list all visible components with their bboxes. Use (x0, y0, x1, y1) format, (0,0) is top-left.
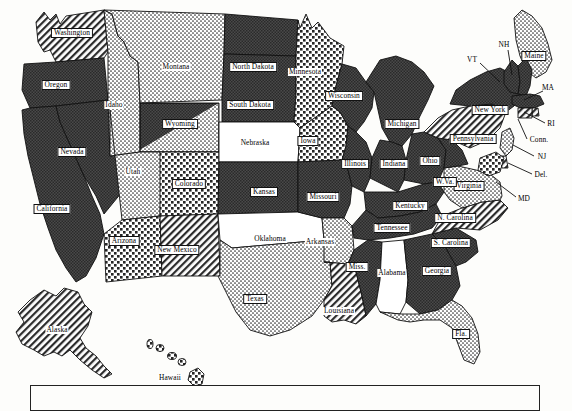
state-shape-AZ[interactable] (104, 216, 162, 282)
state-shape-NJ[interactable] (500, 128, 514, 156)
state-label-CT: Conn. (530, 136, 548, 144)
state-label-IA: Iowa (297, 136, 318, 146)
state-label-PA: Pennsylvania (450, 134, 497, 144)
state-label-ID: Idaho (104, 101, 123, 109)
state-label-MI: Michigan (384, 119, 419, 129)
state-label-NC: N. Carolina (434, 213, 476, 223)
state-label-AZ: Arizona (109, 236, 140, 246)
state-shape-RI[interactable] (532, 108, 539, 116)
state-label-KY: Kentucky (392, 201, 428, 211)
state-label-TN: Tennessee (373, 223, 410, 233)
state-label-NH: NH (499, 41, 510, 49)
state-label-AR: Arkansas (305, 238, 335, 246)
state-label-RI: RI (547, 120, 555, 128)
state-label-NV: Nevada (57, 147, 86, 157)
state-label-IN: Indiana (380, 159, 409, 169)
state-label-UT: Utah (125, 168, 142, 176)
state-label-SD: South Dakota (226, 100, 274, 110)
state-label-VA: Virginia (454, 181, 485, 191)
state-shape-ND[interactable] (224, 14, 298, 56)
state-label-AL: Alabama (377, 269, 406, 277)
state-label-TX: Texas (243, 294, 267, 304)
state-label-NJ: NJ (538, 153, 546, 161)
state-label-AK: Alaska (45, 326, 68, 334)
state-label-ND: North Dakota (229, 62, 277, 72)
state-label-MO: Missouri (306, 192, 339, 202)
state-label-WI: Wisconsin (325, 91, 363, 101)
state-label-MN: Minnesota (288, 68, 322, 76)
state-label-MD: MD (518, 195, 530, 203)
state-label-CA: California (34, 204, 71, 214)
state-label-SC: S. Carolina (431, 238, 471, 248)
state-shape-TX[interactable] (218, 240, 332, 336)
state-label-GA: Georgia (422, 266, 452, 276)
state-label-ME: Maine (521, 51, 546, 61)
state-label-DE: Del. (535, 171, 548, 179)
state-label-FL: Fla. (452, 329, 470, 339)
state-label-HI: Hawaii (158, 374, 182, 382)
state-label-VT: VT (467, 56, 477, 64)
legend-box (30, 385, 540, 411)
state-label-OH: Ohio (419, 156, 440, 166)
state-label-MA: MA (542, 84, 554, 92)
state-label-NE: Nebraska (240, 139, 271, 147)
state-label-WA: Washington (51, 28, 93, 38)
state-label-KS: Kansas (250, 187, 278, 197)
state-label-LA: Louisiana (323, 307, 355, 315)
state-label-NY: New York (472, 105, 509, 115)
state-label-NM: New Mexico (154, 245, 199, 255)
state-label-CO: Colorado (172, 179, 206, 189)
state-label-MS: Miss. (346, 262, 369, 272)
state-label-IL: Illinois (341, 159, 369, 169)
state-label-OR: Oregon (42, 80, 71, 90)
state-label-WY: Wyoming (162, 119, 198, 129)
state-label-MT: Montana (162, 63, 191, 71)
state-shape-MD[interactable] (478, 152, 504, 176)
state-label-OK: Oklahoma (253, 235, 287, 243)
state-label-WV: W.Va. (433, 177, 457, 187)
state-shape-MA[interactable] (512, 94, 544, 108)
